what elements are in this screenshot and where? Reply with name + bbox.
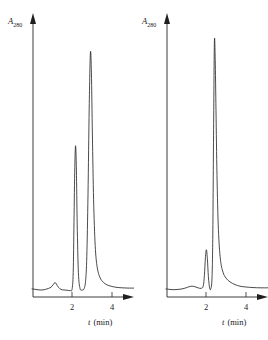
x-axis-title-variable-left: t — [88, 317, 91, 327]
x-axis-arrow-left — [123, 294, 134, 300]
x-tick-label-2-right: 2 — [204, 302, 208, 312]
x-axis-arrow-right — [257, 294, 268, 300]
x-tick-label-2-left: 2 — [70, 302, 74, 312]
y-axis-title-right: A280 — [141, 16, 156, 28]
x-axis-title-variable-right: t — [222, 317, 225, 327]
x-tick-label-4-right: 4 — [244, 302, 249, 312]
chromatogram-figure: 2 4 A280 t(min) 2 4 A280 t(min) — [0, 0, 268, 340]
y-axis-title-subscript-right: 280 — [147, 22, 156, 28]
y-axis-title-subscript-left: 280 — [13, 22, 22, 28]
x-axis-title-right: t(min) — [222, 317, 246, 327]
y-axis-title-left: A280 — [7, 16, 22, 28]
x-axis-title-unit-left: (min) — [93, 317, 112, 327]
x-axis-title-left: t(min) — [88, 317, 112, 327]
chart-svg-left: 2 4 A280 t(min) — [0, 0, 134, 340]
chart-panel-left: 2 4 A280 t(min) — [0, 0, 134, 340]
x-tick-label-4-left: 4 — [110, 302, 115, 312]
y-axis-arrow-right — [164, 13, 170, 24]
chart-panel-right: 2 4 A280 t(min) — [134, 0, 268, 340]
x-axis-title-unit-right: (min) — [227, 317, 246, 327]
chart-svg-right: 2 4 A280 t(min) — [134, 0, 268, 340]
chromatogram-trace-right — [166, 38, 268, 290]
y-axis-arrow-left — [30, 13, 36, 24]
chromatogram-trace-left — [32, 51, 134, 291]
